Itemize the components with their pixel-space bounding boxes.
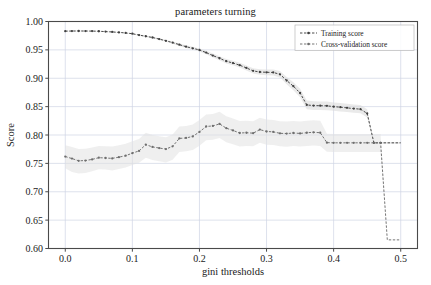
data-point <box>158 38 160 40</box>
y-tick-label: 1.00 <box>26 16 44 27</box>
data-point <box>319 132 321 134</box>
chart-figure: parameters turning 0.00.10.20.30.40.50.6… <box>0 0 431 285</box>
data-point <box>252 70 254 72</box>
data-point <box>131 33 133 35</box>
data-point <box>279 73 281 75</box>
data-point <box>178 44 180 46</box>
data-point <box>171 145 173 147</box>
data-point <box>91 158 93 160</box>
data-point <box>151 36 153 38</box>
data-point <box>286 132 288 134</box>
data-point <box>185 137 187 139</box>
data-point <box>272 131 274 133</box>
data-point <box>299 92 301 94</box>
data-point <box>118 31 120 33</box>
y-tick-label: 0.75 <box>26 158 44 169</box>
data-point <box>205 125 207 127</box>
data-point <box>232 62 234 64</box>
legend-marker-1 <box>307 43 310 46</box>
data-point <box>359 142 361 144</box>
data-point <box>239 64 241 66</box>
data-point <box>306 104 308 106</box>
data-point <box>279 132 281 134</box>
y-tick-label: 0.80 <box>26 130 44 141</box>
x-tick-label: 0.5 <box>394 253 407 264</box>
data-point <box>265 130 267 132</box>
data-point <box>158 147 160 149</box>
x-axis-title: gini thresholds <box>202 266 264 277</box>
y-axis-title: Score <box>5 123 16 147</box>
legend-marker-0 <box>307 32 310 35</box>
y-tick-label: 0.85 <box>26 101 44 112</box>
data-point <box>232 129 234 131</box>
data-point <box>198 49 200 51</box>
legend-label-0: Training score <box>321 29 364 38</box>
y-tick-label: 0.95 <box>26 44 44 55</box>
data-point <box>366 112 368 114</box>
data-point <box>138 150 140 152</box>
data-point <box>104 30 106 32</box>
data-point <box>292 132 294 134</box>
data-point <box>306 132 308 134</box>
y-tick-label: 0.60 <box>26 243 44 254</box>
data-point <box>218 123 220 125</box>
data-point <box>84 159 86 161</box>
data-point <box>192 135 194 137</box>
y-tick-label: 0.70 <box>26 186 44 197</box>
data-point <box>366 142 368 144</box>
x-tick-label: 0.1 <box>126 253 139 264</box>
data-point <box>346 142 348 144</box>
data-point <box>64 155 66 157</box>
data-point <box>225 127 227 129</box>
data-point <box>312 131 314 133</box>
chart-plot-area: 0.00.10.20.30.40.50.600.650.700.750.800.… <box>0 0 431 285</box>
data-point <box>78 30 80 32</box>
data-point <box>91 30 93 32</box>
data-point <box>192 47 194 49</box>
data-point <box>212 125 214 127</box>
y-tick-label: 0.90 <box>26 73 44 84</box>
data-point <box>259 128 261 130</box>
data-point <box>259 71 261 73</box>
data-point <box>165 40 167 42</box>
data-point <box>118 156 120 158</box>
data-point <box>111 157 113 159</box>
data-point <box>212 54 214 56</box>
x-tick-label: 0.3 <box>260 253 273 264</box>
data-point <box>131 152 133 154</box>
data-point <box>98 157 100 159</box>
data-point <box>346 107 348 109</box>
x-tick-label: 0.2 <box>193 253 206 264</box>
data-point <box>104 157 106 159</box>
data-point <box>326 105 328 107</box>
data-point <box>98 30 100 32</box>
data-point <box>84 30 86 32</box>
data-point <box>165 148 167 150</box>
data-point <box>185 46 187 48</box>
data-point <box>138 34 140 36</box>
data-point <box>225 60 227 62</box>
data-point <box>359 108 361 110</box>
data-point <box>64 30 66 32</box>
data-point <box>145 144 147 146</box>
data-point <box>145 35 147 37</box>
data-point <box>326 142 328 144</box>
data-point <box>71 30 73 32</box>
data-point <box>373 142 375 144</box>
data-point <box>198 131 200 133</box>
data-point <box>245 132 247 134</box>
data-point <box>265 71 267 73</box>
data-point <box>272 71 274 73</box>
data-point <box>319 105 321 107</box>
data-point <box>292 85 294 87</box>
data-point <box>379 142 381 144</box>
data-point <box>239 132 241 134</box>
data-point <box>353 107 355 109</box>
data-point <box>78 160 80 162</box>
y-tick-label: 0.65 <box>26 215 44 226</box>
data-point <box>245 67 247 69</box>
data-point <box>299 132 301 134</box>
x-tick-label: 0.4 <box>327 253 340 264</box>
legend-label-1: Cross-validation score <box>321 40 388 49</box>
data-point <box>339 106 341 108</box>
